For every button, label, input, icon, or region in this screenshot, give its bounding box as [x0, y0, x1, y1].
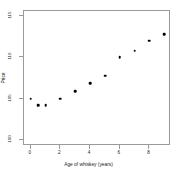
scatter-plot-figure: 100105110115 02468 Age of whiskey (years…: [0, 0, 177, 176]
y-axis-tick-label: 115: [0, 15, 19, 16]
y-axis-tick-label: 100: [0, 139, 19, 140]
x-axis-tick-label: 0: [28, 151, 31, 156]
data-point: [89, 82, 92, 85]
data-point: [59, 97, 62, 100]
x-axis-tick-label: 8: [147, 151, 150, 156]
x-axis-tick: [30, 145, 31, 149]
x-axis-tick-label: 4: [88, 151, 91, 156]
x-axis-tick-label: 2: [58, 151, 61, 156]
x-axis-tick: [119, 145, 120, 149]
y-axis-tick-label: 110: [0, 56, 19, 57]
x-axis-title: Age of whiskey (years): [0, 163, 177, 168]
data-point: [148, 40, 151, 43]
x-axis-tick-label: 6: [117, 151, 120, 156]
data-point: [29, 97, 32, 100]
x-axis-tick: [148, 145, 149, 149]
data-point: [118, 56, 121, 59]
data-points-layer: [24, 11, 169, 144]
data-point: [37, 104, 40, 107]
x-axis-tick: [59, 145, 60, 149]
data-point: [133, 49, 136, 52]
data-point: [74, 90, 77, 93]
data-point: [104, 74, 107, 77]
y-axis-tick-label: 105: [0, 98, 19, 99]
data-point: [163, 33, 166, 36]
y-axis-title: Price: [2, 73, 7, 84]
x-axis-tick: [89, 145, 90, 149]
plot-area: [23, 10, 170, 145]
data-point: [44, 104, 47, 107]
